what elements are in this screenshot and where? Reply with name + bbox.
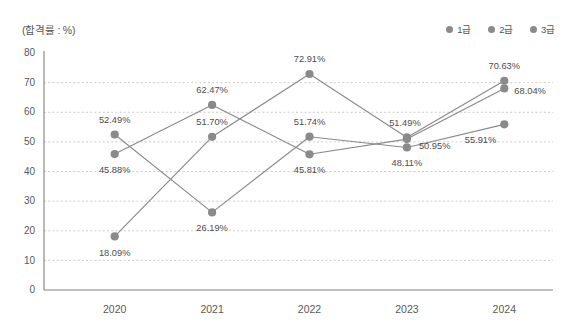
data-point-marker[interactable] [403, 143, 411, 151]
data-point-label: 52.49% [99, 115, 131, 125]
data-point-label: 68.04% [514, 86, 546, 96]
y-axis-tick-label: 10 [24, 255, 36, 266]
data-point-label: 51.74% [294, 117, 326, 127]
data-point-label: 72.91% [294, 54, 326, 64]
data-point-marker[interactable] [500, 120, 508, 128]
y-axis-tick-label: 0 [29, 284, 35, 295]
data-point-label: 51.49% [389, 118, 421, 128]
data-point-label: 18.09% [99, 248, 131, 258]
x-axis-tick-label: 2023 [395, 303, 419, 315]
y-axis-tick-label: 30 [24, 195, 36, 206]
x-axis-tick-label: 2024 [493, 303, 517, 315]
data-point-marker[interactable] [403, 133, 411, 141]
y-axis-tick-label: 80 [24, 47, 36, 58]
x-axis-tick-label: 2020 [103, 303, 127, 315]
y-axis-tick-label: 50 [24, 136, 36, 147]
data-point-marker[interactable] [500, 77, 508, 85]
x-axis-tick-label: 2022 [298, 303, 322, 315]
data-point-marker[interactable] [305, 70, 313, 78]
data-point-label: 45.88% [99, 165, 131, 175]
x-axis-tick-label: 2021 [200, 303, 224, 315]
data-point-marker[interactable] [208, 101, 216, 109]
y-axis-tick-label: 60 [24, 106, 36, 117]
data-point-marker[interactable] [208, 208, 216, 216]
data-point-label: 70.63% [489, 61, 521, 71]
data-point-label: 50.95% [419, 141, 451, 151]
data-point-label: 51.70% [196, 117, 228, 127]
data-point-marker[interactable] [305, 133, 313, 141]
line-chart: 010203040506070802020202120222023202452.… [0, 0, 567, 329]
y-axis-tick-label: 70 [24, 77, 36, 88]
y-axis-tick-label: 20 [24, 225, 36, 236]
data-point-label: 26.19% [196, 223, 228, 233]
data-point-marker[interactable] [111, 232, 119, 240]
data-point-marker[interactable] [305, 150, 313, 158]
data-point-label: 48.11% [391, 158, 422, 168]
y-axis-tick-label: 40 [24, 166, 36, 177]
data-point-marker[interactable] [111, 130, 119, 138]
data-point-label: 62.47% [196, 85, 228, 95]
data-point-marker[interactable] [208, 133, 216, 141]
chart-page: (합격률 : %) 1급 2급 3급 010203040506070802020… [0, 0, 567, 329]
data-point-marker[interactable] [500, 84, 508, 92]
data-point-label: 45.81% [294, 165, 326, 175]
data-point-marker[interactable] [111, 150, 119, 158]
data-point-label: 55.91% [465, 135, 497, 145]
chart-canvas: 010203040506070802020202120222023202452.… [0, 0, 567, 329]
